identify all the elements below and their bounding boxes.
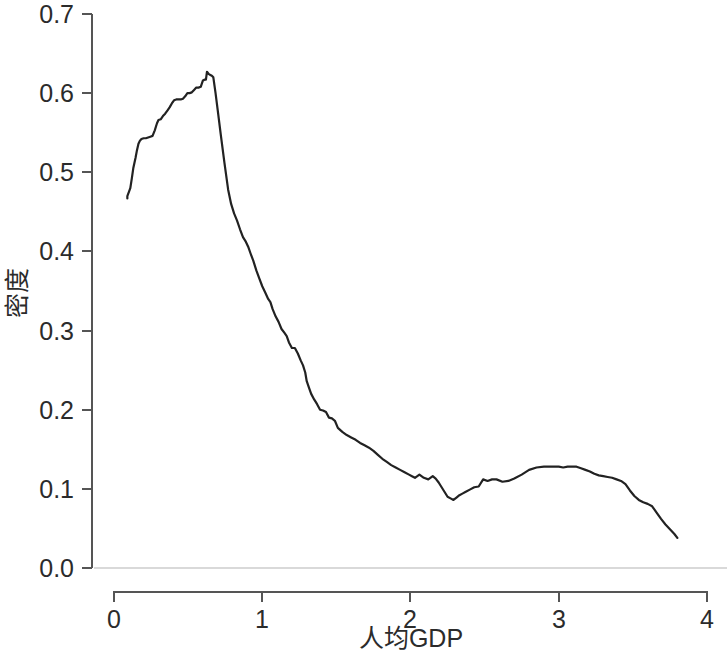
chart-plot-area (0, 0, 727, 655)
x-axis-spine (114, 592, 707, 602)
y-axis-title: 密度 (5, 253, 30, 333)
xtick-label-4: 4 (677, 607, 727, 632)
ytick-label-2: 0.5 (8, 160, 74, 185)
density-chart-figure: 0.7 0.6 0.5 0.4 0.3 0.2 0.1 0.0 0 1 2 3 … (0, 0, 727, 655)
xtick-label-1: 1 (232, 607, 292, 632)
xtick-label-3: 3 (529, 607, 589, 632)
ytick-label-5: 0.2 (8, 398, 74, 423)
ytick-label-6: 0.1 (8, 477, 74, 502)
density-curve-line (127, 72, 677, 538)
ytick-label-0: 0.7 (8, 2, 74, 27)
ytick-label-7: 0.0 (8, 556, 74, 581)
y-axis-spine (82, 14, 92, 568)
x-axis-title: 人均GDP (311, 626, 511, 651)
ytick-label-1: 0.6 (8, 81, 74, 106)
xtick-label-0: 0 (84, 607, 144, 632)
